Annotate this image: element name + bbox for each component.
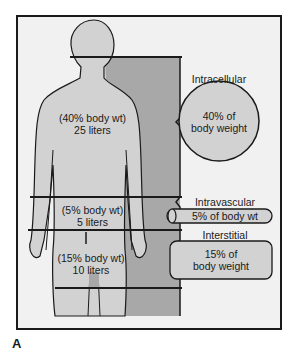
interstitial-title: Interstitial	[175, 229, 275, 241]
body-figure-illustration	[0, 0, 294, 358]
intracellular-title: Intracellular	[179, 73, 259, 85]
panel-label: A	[12, 336, 21, 351]
intracellular-body-label: (40% body wt) 25 liters	[40, 112, 145, 136]
intravascular-title: Intravascular	[175, 196, 275, 208]
intravascular-tube-text: 5% of body wt	[175, 210, 275, 222]
interstitial-box-text: 15% of body weight	[170, 248, 272, 272]
intravascular-body-label: (5% body wt) 5 liters	[40, 204, 145, 228]
interstitial-body-label: (15% body wt) 10 liters	[36, 252, 146, 276]
intracellular-circle-text: 40% of body weight	[179, 110, 259, 134]
